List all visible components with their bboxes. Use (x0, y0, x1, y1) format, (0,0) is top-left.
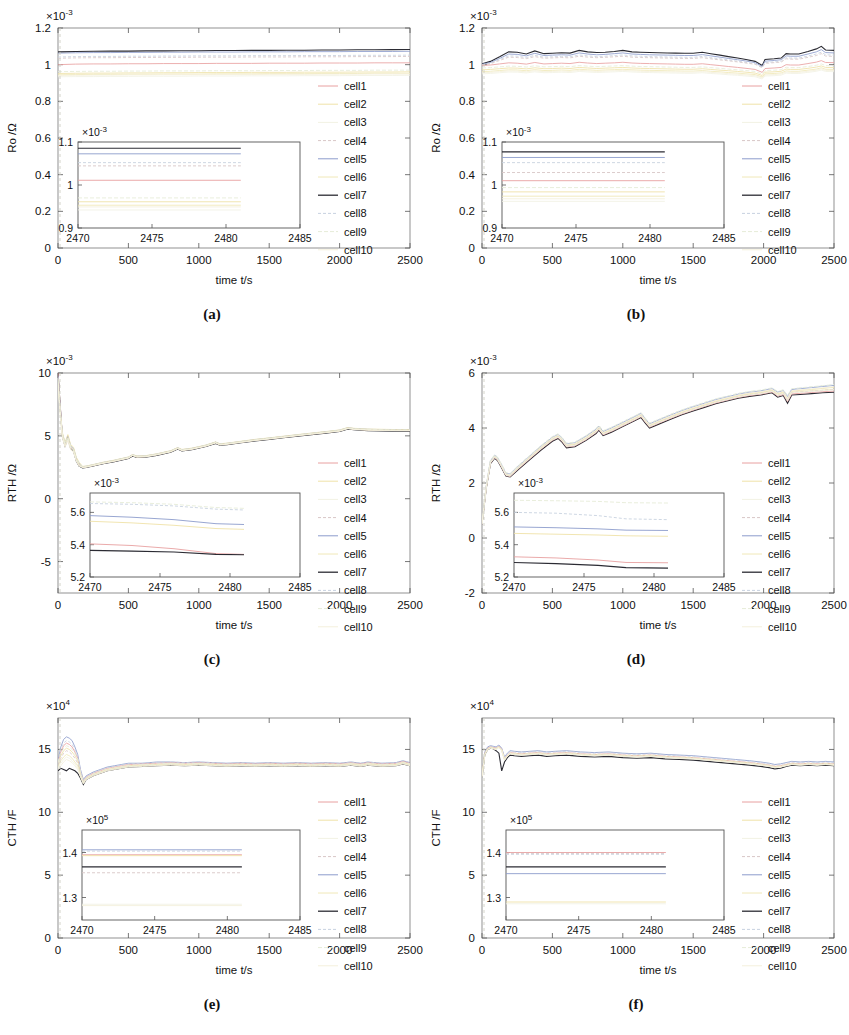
x-tick-label: 1500 (256, 944, 282, 956)
inset-y-tick-label: 1.4 (486, 847, 501, 859)
legend-label-cell6: cell6 (768, 887, 791, 899)
inset-x-tick-label: 2480 (640, 924, 664, 936)
series-line-cell8 (58, 377, 410, 467)
series-line-cell10 (58, 384, 410, 467)
y-tick-label: 0.6 (459, 132, 475, 144)
subplot-caption-b: (b) (424, 306, 848, 323)
inset-y-tick-label: 1.1 (58, 136, 73, 148)
x-tick-label: 0 (55, 944, 61, 956)
y-axis-title: Ro /Ω (6, 123, 18, 153)
legend-label-cell6: cell6 (768, 548, 791, 560)
legend-label-cell8: cell8 (344, 923, 367, 935)
legend-label-cell1: cell1 (768, 796, 791, 808)
inset-x-tick-label: 2475 (148, 581, 172, 593)
legend-label-cell8: cell8 (344, 584, 367, 596)
x-tick-label: 2500 (821, 599, 847, 611)
legend-label-cell3: cell3 (768, 493, 791, 505)
legend-label-cell2: cell2 (768, 814, 791, 826)
subplot-caption-d: (d) (424, 651, 848, 668)
x-tick-label: 500 (119, 599, 138, 611)
series-line-cell8 (482, 746, 834, 775)
x-axis-title: time t/s (215, 964, 252, 976)
legend-label-cell7: cell7 (344, 905, 367, 917)
inset-x-tick-label: 2470 (78, 581, 102, 593)
x-tick-label: 2500 (397, 254, 423, 266)
legend-label-cell4: cell4 (344, 512, 367, 524)
series-group (58, 373, 410, 468)
series-line-cell1 (58, 63, 410, 65)
legend-label-cell5: cell5 (344, 153, 367, 165)
legend-label-cell9: cell9 (344, 226, 367, 238)
plot-e: 05101505001000150020002500×104CTH /Ftime… (0, 690, 424, 990)
legend-label-cell8: cell8 (344, 207, 367, 219)
legend-label-cell6: cell6 (344, 171, 367, 183)
legend-label-cell4: cell4 (344, 135, 367, 147)
legend-label-cell7: cell7 (768, 189, 791, 201)
series-group (58, 49, 410, 76)
x-tick-label: 2500 (821, 944, 847, 956)
plot-d: -2024605001000150020002500×10-3RTH /Ωtim… (424, 345, 848, 645)
legend-label-cell5: cell5 (768, 530, 791, 542)
legend-label-cell2: cell2 (344, 98, 367, 110)
legend-label-cell10: cell10 (768, 621, 797, 633)
y-tick-label: 0.8 (35, 95, 51, 107)
y-tick-label: 1.2 (459, 22, 475, 34)
inset-y-tick-label: 5.6 (494, 506, 509, 518)
legend-label-cell10: cell10 (344, 960, 373, 972)
plot-c: -5051005001000150020002500×10-3RTH /Ωtim… (0, 345, 424, 645)
series-line-cell1 (58, 373, 410, 467)
legend-label-cell7: cell7 (344, 566, 367, 578)
figure-container: 00.20.40.60.811.205001000150020002500×10… (0, 0, 849, 1035)
legend-label-cell3: cell3 (344, 493, 367, 505)
x-tick-label: 0 (479, 944, 485, 956)
legend-label-cell10: cell10 (344, 621, 373, 633)
plot-a: 00.20.40.60.811.205001000150020002500×10… (0, 0, 424, 300)
series-group (58, 737, 410, 785)
subplot-a: 00.20.40.60.811.205001000150020002500×10… (0, 0, 424, 345)
series-line-cell7 (58, 764, 410, 785)
series-line-cell2 (58, 378, 410, 466)
legend-label-cell9: cell9 (768, 603, 791, 615)
inset-frame (82, 830, 300, 920)
legend-label-cell3: cell3 (768, 116, 791, 128)
y-tick-label: 0 (469, 532, 475, 544)
y-axis-exponent: ×104 (470, 698, 495, 712)
inset-x-tick-label: 2485 (288, 924, 312, 936)
subplot-d: -2024605001000150020002500×10-3RTH /Ωtim… (424, 345, 848, 690)
legend-label-cell4: cell4 (768, 512, 791, 524)
y-tick-label: 1 (45, 59, 51, 71)
x-tick-label: 1000 (186, 944, 212, 956)
inset-y-tick-label: 5.4 (70, 539, 85, 551)
inset-y-tick-label: 1.3 (62, 892, 77, 904)
y-tick-label: 10 (38, 367, 51, 379)
series-group (482, 745, 834, 777)
inset-x-tick-label: 2475 (143, 924, 167, 936)
series-line-cell4 (58, 381, 410, 467)
inset-x-tick-label: 2470 (66, 232, 90, 244)
y-tick-label: 0.4 (459, 169, 476, 181)
x-tick-label: 1000 (186, 599, 212, 611)
inset-frame (78, 142, 300, 228)
y-tick-label: 4 (469, 422, 476, 434)
y-axis-title: CTH /F (6, 809, 18, 846)
y-tick-label: 0 (469, 932, 475, 944)
inset-x-tick-label: 2480 (216, 924, 240, 936)
y-tick-label: 5 (469, 869, 475, 881)
series-line-cell5 (482, 745, 834, 775)
inset-y-tick-label: 5.6 (70, 506, 85, 518)
y-axis-exponent: ×10-3 (46, 353, 73, 367)
y-tick-label: 0.8 (459, 95, 475, 107)
subplot-e: 05101505001000150020002500×104CTH /Ftime… (0, 690, 424, 1035)
legend-label-cell7: cell7 (768, 905, 791, 917)
legend-label-cell1: cell1 (344, 80, 367, 92)
legend-label-cell8: cell8 (768, 207, 791, 219)
x-axis-title: time t/s (639, 964, 676, 976)
x-tick-label: 500 (543, 944, 562, 956)
inset-x-tick-label: 2480 (638, 232, 662, 244)
y-axis-exponent: ×10-3 (46, 8, 73, 22)
inset-exponent: ×10-3 (518, 476, 543, 489)
legend-label-cell6: cell6 (344, 887, 367, 899)
x-tick-label: 1000 (186, 254, 212, 266)
subplot-caption-c: (c) (0, 651, 424, 668)
series-line-cell9 (58, 70, 410, 71)
